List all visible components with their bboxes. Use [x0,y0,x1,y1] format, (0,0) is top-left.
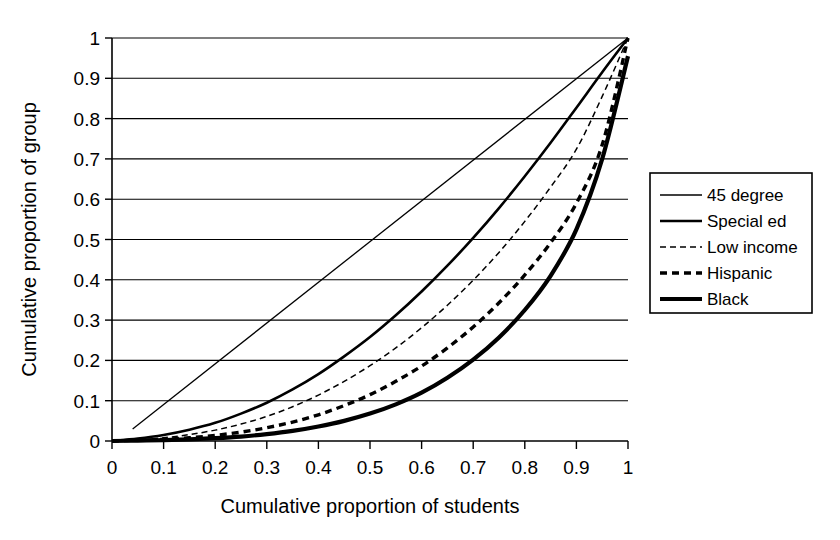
x-tick-label: 0.1 [150,457,176,478]
x-tick-label: 1 [623,457,634,478]
lorenz-curve-chart: 00.10.20.30.40.50.60.70.80.91 00.10.20.3… [0,0,840,540]
y-tick-label: 0.2 [74,350,100,371]
y-tick-label: 1 [89,28,100,49]
x-tick-label: 0.9 [563,457,589,478]
series-line-45-degree [133,38,628,429]
y-tick-label: 0.4 [74,270,101,291]
legend-label: Special ed [707,212,786,231]
legend-label: Hispanic [707,264,773,283]
x-tick-label: 0 [107,457,118,478]
legend-label: Low income [707,238,798,257]
x-tick-label: 0.6 [408,457,434,478]
series-line-black [112,56,628,441]
y-axis-title: Cumulative proportion of group [18,102,40,377]
y-tick-label: 0.9 [74,68,100,89]
gridlines-group [112,38,628,401]
y-tick-label: 0.5 [74,230,100,251]
chart-figure: 00.10.20.30.40.50.60.70.80.91 00.10.20.3… [0,0,840,540]
x-tick-label: 0.2 [202,457,228,478]
legend-label: Black [707,290,749,309]
y-tick-label: 0.7 [74,149,100,170]
y-tick-label: 0 [89,431,100,452]
legend-label: 45 degree [707,186,784,205]
y-tick-label: 0.3 [74,310,100,331]
y-tick-label: 0.8 [74,109,100,130]
y-tick-group: 00.10.20.30.40.50.60.70.80.91 [74,28,112,452]
x-tick-label: 0.4 [305,457,332,478]
x-tick-label: 0.8 [512,457,538,478]
chart-legend: 45 degreeSpecial edLow incomeHispanicBla… [650,173,812,313]
x-tick-label: 0.5 [357,457,383,478]
x-tick-label: 0.3 [254,457,280,478]
x-axis-title: Cumulative proportion of students [220,495,519,517]
y-tick-label: 0.6 [74,189,100,210]
y-tick-label: 0.1 [74,391,100,412]
x-tick-group: 00.10.20.30.40.50.60.70.80.91 [107,441,634,478]
x-tick-label: 0.7 [460,457,486,478]
